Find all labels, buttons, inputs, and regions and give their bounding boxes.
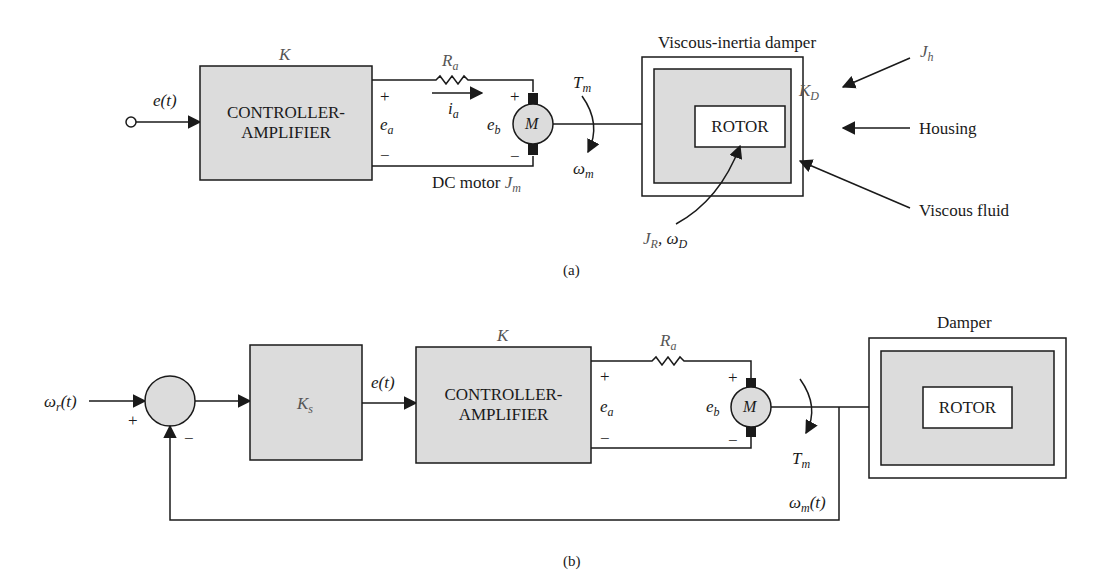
eb-label-a: eb (487, 116, 501, 136)
caption-a: (a) (563, 262, 580, 279)
wm-sub: m (585, 167, 594, 181)
reference-input-label: ωr(t) (44, 393, 77, 413)
eb-sub: b (495, 123, 501, 137)
kd-symbol: K (799, 81, 810, 100)
kd-sub: D (810, 89, 819, 103)
ea-label-b: ea (600, 398, 614, 418)
diagram-b-graphics (89, 338, 1066, 520)
ea-minus-b: − (600, 430, 610, 447)
ra-label-b: Ra (660, 332, 676, 352)
ks-sub: s (308, 402, 313, 416)
ra-sub: a (452, 59, 458, 73)
jh-symbol: J (920, 42, 928, 61)
viscous-fluid-callout: Viscous fluid (919, 202, 1009, 219)
eb-plus-b: + (728, 369, 738, 386)
rotor-label-a: ROTOR (695, 117, 785, 137)
wm-symbol: ω (573, 159, 585, 178)
diagram-canvas (0, 0, 1108, 586)
wd-symbol: ω (666, 229, 678, 248)
eb-minus-a: − (510, 148, 520, 165)
wd-sub: D (678, 237, 687, 251)
ra-label-a: Ra (442, 52, 458, 72)
ra-symbol: R (442, 51, 452, 70)
speed-label-a: ωm (573, 160, 594, 180)
controller-b-line1: CONTROLLER- (416, 385, 591, 405)
eb-minus-b: − (728, 432, 738, 449)
wm-b-sub: m (801, 501, 810, 515)
wr-symbol: ω (44, 392, 56, 411)
input-signal-label-a: e(t) (153, 92, 177, 109)
ks-label: Ks (297, 395, 313, 415)
sum-plus: + (128, 412, 138, 429)
error-signal-label-b: e(t) (371, 374, 395, 391)
controller-amplifier-label-b: CONTROLLER- AMPLIFIER (416, 385, 591, 425)
ea-plus-a: + (380, 88, 390, 105)
dc-motor-label: DC motor Jm (432, 174, 521, 194)
damper-title-a: Viscous-inertia damper (658, 34, 816, 51)
eb-plus-a: + (510, 88, 520, 105)
ea-sub: a (388, 123, 394, 137)
jr-sub: R (651, 237, 658, 251)
wm-b-suffix: (t) (810, 493, 826, 512)
sum-minus: − (184, 430, 194, 447)
controller-b-line2: AMPLIFIER (416, 405, 591, 425)
ks-symbol: K (297, 394, 308, 413)
ea-plus-b: + (600, 368, 610, 385)
controller-gain-label-a: K (279, 46, 290, 63)
ra-b-sub: a (670, 339, 676, 353)
jh-label: Jh (920, 43, 934, 63)
eb-b-sub: b (714, 405, 720, 419)
motor-symbol-b: M (743, 399, 756, 415)
ia-label: ia (448, 100, 459, 120)
torque-label-a: Tm (573, 74, 591, 94)
ia-sub: a (453, 107, 459, 121)
tm-b-sub: m (801, 457, 810, 471)
ea-b-symbol: e (600, 397, 608, 416)
controller-gain-label-b: K (497, 327, 508, 344)
jh-sub: h (928, 50, 934, 64)
ea-label-a: ea (380, 116, 394, 136)
jr-symbol: J (643, 229, 651, 248)
ra-b-symbol: R (660, 331, 670, 350)
ea-b-sub: a (608, 405, 614, 419)
rotor-label-b: ROTOR (923, 398, 1012, 418)
feedback-signal-label: ωm(t) (789, 494, 826, 514)
dc-motor-text: DC motor (432, 173, 500, 192)
controller-line2: AMPLIFIER (200, 123, 372, 143)
rotor-params-label: JR, ωD (643, 230, 687, 250)
wm-b-symbol: ω (789, 493, 801, 512)
controller-line1: CONTROLLER- (200, 103, 372, 123)
ea-minus-a: − (380, 147, 390, 164)
input-terminal-icon (126, 117, 136, 127)
summing-junction-icon (145, 376, 195, 426)
damper-title-b: Damper (937, 314, 992, 331)
torque-label-b: Tm (792, 450, 810, 470)
eb-b-symbol: e (706, 397, 714, 416)
kd-label: KD (799, 82, 819, 102)
ea-symbol: e (380, 115, 388, 134)
tm-sub: m (582, 81, 591, 95)
motor-symbol-a: M (525, 116, 538, 132)
eb-symbol: e (487, 115, 495, 134)
housing-callout: Housing (919, 120, 977, 137)
jm-sub: m (512, 181, 521, 195)
controller-amplifier-label-a: CONTROLLER- AMPLIFIER (200, 103, 372, 143)
wr-suffix: (t) (61, 392, 77, 411)
caption-b: (b) (563, 553, 581, 570)
eb-label-b: eb (706, 398, 720, 418)
